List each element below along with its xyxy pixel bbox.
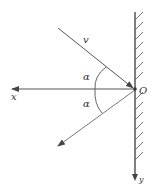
angle-label-incident: α — [83, 71, 90, 82]
origin-point — [133, 87, 137, 91]
reflection-diagram: v α α x O y — [0, 0, 161, 184]
velocity-label: v — [83, 34, 89, 45]
incident-velocity-vector — [58, 28, 133, 88]
origin-label: O — [139, 85, 147, 96]
y-axis-label: y — [138, 175, 144, 184]
angle-arc-reflected — [95, 89, 102, 113]
angle-arc-incident — [95, 67, 106, 89]
y-axis-arrow-icon — [132, 174, 138, 181]
reflected-velocity-vector — [58, 90, 135, 146]
x-axis-label: x — [11, 91, 17, 102]
angle-label-reflected: α — [83, 98, 90, 109]
